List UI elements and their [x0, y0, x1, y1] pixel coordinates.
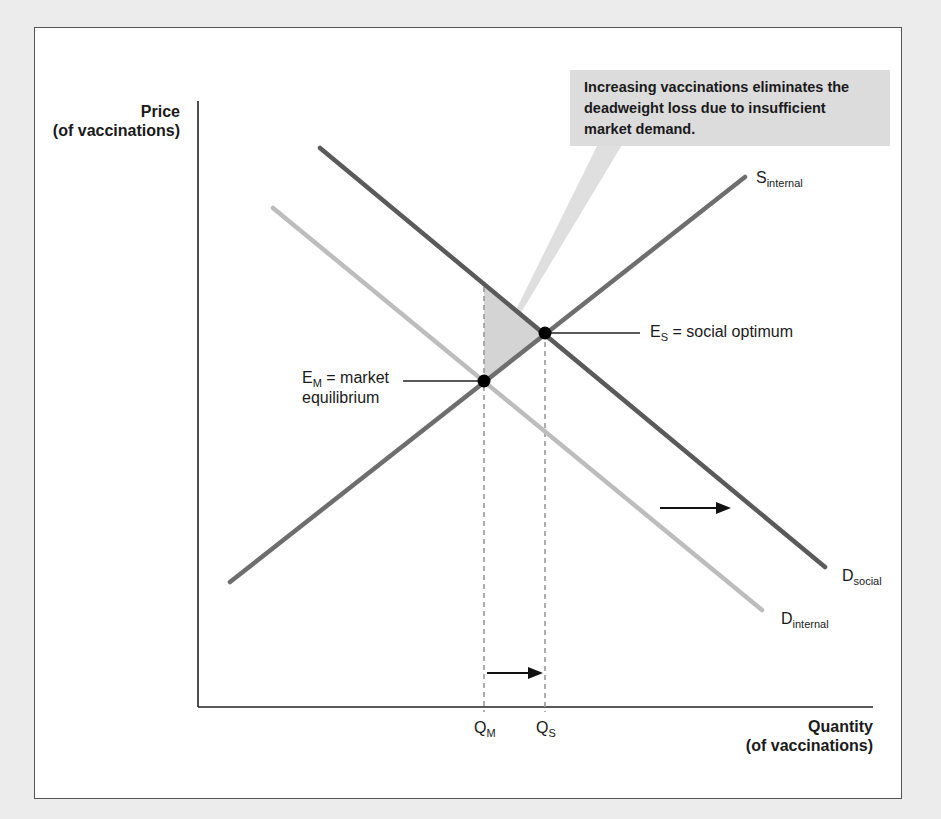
demand-social-label-sub: social	[854, 575, 882, 587]
supply-internal-label: Sinternal	[756, 168, 803, 187]
qm-main: Q	[474, 719, 486, 736]
social-optimum-point	[539, 327, 552, 340]
callout-text: Increasing vaccinations eliminates the d…	[584, 79, 849, 137]
supply-internal-label-main: S	[756, 169, 767, 186]
social-optimum-label: ES = social optimum	[650, 322, 793, 341]
demand-internal-label-sub: internal	[793, 618, 829, 630]
market-equilibrium-label: EM = market equilibrium	[302, 368, 389, 408]
qm-sub: M	[486, 727, 495, 739]
qm-tick-label: QM	[474, 718, 496, 737]
demand-shift-arrowhead	[716, 502, 731, 514]
y-axis-label-line1: Price	[30, 102, 180, 121]
em-text-line1: = market	[322, 369, 389, 386]
es-sub: S	[661, 331, 668, 343]
qs-main: Q	[536, 719, 548, 736]
x-axis-label: Quantity (of vaccinations)	[700, 717, 873, 755]
es-main: E	[650, 323, 661, 340]
supply-internal-label-sub: internal	[767, 177, 803, 189]
y-axis-label-line2: (of vaccinations)	[30, 121, 180, 140]
em-main: E	[302, 369, 313, 386]
market-equilibrium-point	[478, 375, 491, 388]
x-axis-label-line1: Quantity	[700, 717, 873, 736]
callout-box: Increasing vaccinations eliminates the d…	[570, 70, 890, 146]
em-text-line2: equilibrium	[302, 388, 389, 408]
y-axis-label: Price (of vaccinations)	[30, 102, 180, 140]
demand-social-label: Dsocial	[842, 566, 882, 585]
deadweight-loss-area	[484, 287, 545, 381]
es-text: = social optimum	[668, 323, 793, 340]
demand-internal-label-main: D	[781, 610, 793, 627]
demand-social-label-main: D	[842, 567, 854, 584]
qs-tick-label: QS	[536, 718, 556, 737]
demand-internal-curve	[273, 208, 762, 610]
callout-pointer	[503, 140, 625, 336]
x-axis-label-line2: (of vaccinations)	[700, 736, 873, 755]
demand-internal-label: Dinternal	[781, 609, 829, 628]
quantity-shift-arrowhead	[528, 667, 543, 679]
qs-sub: S	[548, 727, 555, 739]
